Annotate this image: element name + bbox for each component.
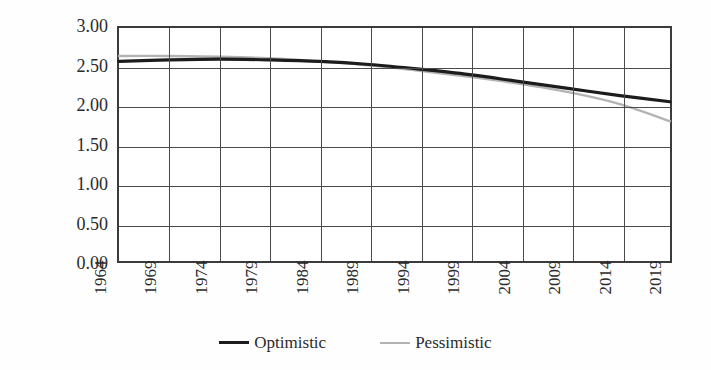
y-tick-label: 2.00 [46,96,108,114]
chart-figure: Cable FOS 0.000.501.001.502.002.503.00 1… [0,0,711,370]
vertical-gridline [169,28,170,261]
y-tick-label: 1.50 [46,136,108,154]
horizontal-gridline [119,226,670,227]
y-tick-label: 1.00 [46,175,108,193]
horizontal-gridline [119,186,670,187]
y-axis-tick-labels: 0.000.501.001.502.002.503.00 [46,0,108,370]
horizontal-gridline [119,107,670,108]
legend-item-optimistic[interactable]: Optimistic [219,334,326,351]
vertical-gridline [523,28,524,261]
vertical-gridline [220,28,221,261]
vertical-gridline [422,28,423,261]
x-tick-label: 2019 [642,269,702,291]
horizontal-gridline [119,68,670,69]
legend-item-pessimistic[interactable]: Pessimistic [380,334,492,351]
vertical-gridline [321,28,322,261]
y-tick-label: 3.00 [46,17,108,35]
x-axis-tick-labels: 1964196919741979198419891994199920042009… [117,263,672,333]
legend-label: Optimistic [254,334,326,351]
chart-legend: OptimisticPessimistic [0,334,711,351]
vertical-gridline [472,28,473,261]
vertical-gridline [371,28,372,261]
horizontal-gridline [119,147,670,148]
vertical-gridline [624,28,625,261]
y-tick-label: 0.50 [46,215,108,233]
line-swatch-gray-icon [380,342,410,344]
vertical-gridline [573,28,574,261]
vertical-gridline [270,28,271,261]
line-swatch-dark-icon [219,341,249,344]
plot-area [117,26,672,263]
y-tick-label: 2.50 [46,57,108,75]
legend-label: Pessimistic [415,334,492,351]
